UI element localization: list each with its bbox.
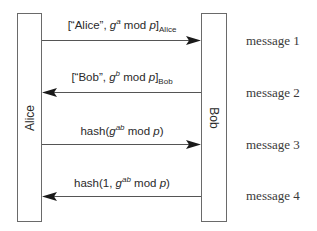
arrowhead-right-icon — [186, 36, 201, 45]
message-2-label: message 2 — [246, 86, 300, 100]
message-2-content: [“Bob”, gb mod p]Bob — [71, 70, 172, 84]
arrowhead-left-icon — [42, 88, 57, 97]
message-3-label: message 3 — [246, 138, 300, 152]
arrowhead-left-icon — [42, 192, 57, 201]
arrowhead-right-icon — [186, 140, 201, 149]
sequence-diagram: Alice Bob [“Alice”, ga mod p]Alice [“Bob… — [0, 0, 317, 231]
message-4-label: message 4 — [246, 189, 300, 203]
message-4-content: hash(1, gab mod p) — [74, 176, 170, 190]
message-1-label: message 1 — [246, 34, 300, 48]
message-3-content: hash(gab mod p) — [80, 124, 163, 138]
message-1-content: [“Alice”, ga mod p]Alice — [68, 18, 177, 32]
